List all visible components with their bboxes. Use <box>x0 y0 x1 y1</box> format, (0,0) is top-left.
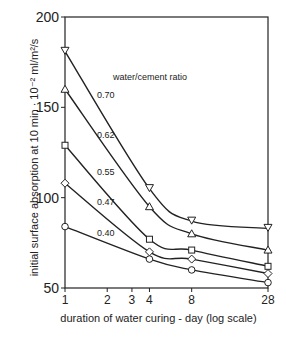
x-tick-label: 8 <box>188 293 195 307</box>
triangle-down-marker <box>61 47 69 54</box>
diamond-marker <box>264 270 272 278</box>
triangle-up-marker <box>61 85 69 92</box>
plot-frame <box>65 17 268 288</box>
square-marker <box>189 247 195 253</box>
square-marker <box>62 142 68 148</box>
series-line-0.62 <box>65 89 268 250</box>
series-line-0.55 <box>65 145 268 266</box>
diamond-marker <box>188 255 196 263</box>
y-axis-label: initial surface absorption at 10 min · 1… <box>28 38 40 276</box>
series-label: 0.62 <box>97 130 115 140</box>
circle-marker <box>146 256 153 263</box>
x-tick-label: 4 <box>146 293 153 307</box>
y-tick-label: 200 <box>36 9 60 25</box>
x-tick-label: 28 <box>261 293 275 307</box>
series-label: 0.70 <box>97 90 115 100</box>
series-label: 0.47 <box>97 197 115 207</box>
circle-marker <box>62 223 69 230</box>
square-marker <box>146 236 152 242</box>
x-tick-label: 3 <box>129 293 136 307</box>
x-axis-label: duration of water curing - day (log scal… <box>60 312 256 324</box>
absorption-chart: 501001502001234828duration of water curi… <box>0 0 286 337</box>
legend-title: water/cement ratio <box>112 72 187 82</box>
series-label: 0.55 <box>97 167 115 177</box>
x-tick-label: 2 <box>104 293 111 307</box>
series-label: 0.40 <box>97 228 115 238</box>
series-line-0.40 <box>65 227 268 283</box>
circle-marker <box>188 267 195 274</box>
y-tick-label: 50 <box>43 280 59 296</box>
x-tick-label: 1 <box>62 293 69 307</box>
square-marker <box>265 263 271 269</box>
circle-marker <box>265 279 272 286</box>
triangle-down-marker <box>145 185 153 192</box>
diamond-marker <box>145 248 153 256</box>
